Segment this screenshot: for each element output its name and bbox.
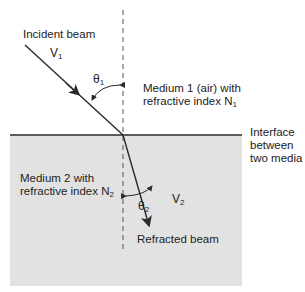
interface-label: Interface between two media bbox=[250, 126, 302, 165]
interface-line1: Interface bbox=[250, 126, 302, 139]
theta1-sub: 1 bbox=[100, 78, 104, 87]
medium-2-sub: 2 bbox=[109, 190, 113, 199]
medium-2-region bbox=[10, 135, 242, 286]
v1-label: V1 bbox=[50, 46, 62, 61]
refracted-beam-text: Refracted beam bbox=[137, 233, 219, 245]
interface-line3: two media bbox=[250, 152, 302, 165]
theta1-text: θ bbox=[93, 72, 100, 86]
medium-2-line2: refractive index N bbox=[20, 185, 109, 197]
medium-1-line2: refractive index N bbox=[143, 95, 232, 107]
v2-label: V2 bbox=[172, 192, 184, 207]
v1-sub: 1 bbox=[58, 52, 62, 61]
theta1-arc bbox=[92, 85, 120, 100]
medium-1-sub: 1 bbox=[232, 100, 236, 109]
v2-sub: 2 bbox=[180, 198, 184, 207]
interface-line2: between bbox=[250, 139, 302, 152]
medium-2-line1: Medium 2 with bbox=[20, 172, 114, 185]
medium-1-line1: Medium 1 (air) with bbox=[143, 82, 241, 95]
theta2-label: θ2 bbox=[138, 199, 149, 214]
incident-beam-label: Incident beam bbox=[23, 28, 95, 41]
v2-text: V bbox=[172, 192, 180, 206]
theta2-sub: 2 bbox=[145, 205, 149, 214]
medium-1-label: Medium 1 (air) with refractive index N1 bbox=[143, 82, 241, 111]
medium-2-label: Medium 2 with refractive index N2 bbox=[20, 172, 114, 201]
v1-text: V bbox=[50, 46, 58, 60]
incident-beam-text: Incident beam bbox=[23, 28, 95, 40]
refracted-beam-label: Refracted beam bbox=[137, 233, 219, 246]
theta2-text: θ bbox=[138, 199, 145, 213]
incident-arrow-icon bbox=[66, 83, 76, 92]
theta1-label: θ1 bbox=[93, 72, 104, 87]
